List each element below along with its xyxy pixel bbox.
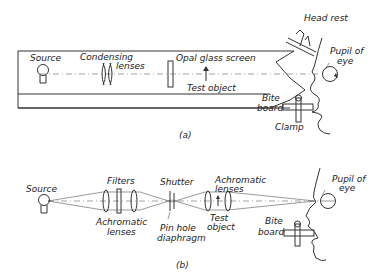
label-board-b: board [258, 227, 284, 237]
label-clamp: Clamp [275, 122, 304, 132]
label-lenses-left: lenses [107, 227, 136, 237]
label-achromatic-left: Achromatic [95, 217, 147, 227]
label-eye: eye [337, 56, 354, 66]
eye-icon [323, 67, 339, 82]
face-profile-b [306, 168, 326, 261]
label-bite-b: Bite [265, 216, 283, 226]
test-object-arrow-icon [203, 66, 209, 81]
face-profile [310, 38, 330, 134]
pinhole-pointer [168, 212, 170, 219]
label-opal-glass-screen: Opal glass screen [176, 53, 256, 63]
label-board: board [257, 103, 283, 113]
label-test-object: Test object [187, 83, 236, 93]
label-source-b: Source [26, 184, 58, 194]
head-rest [286, 30, 316, 56]
pupil-pointer [326, 63, 329, 69]
label-pupil-of: Pupil of [330, 46, 365, 56]
caption-b: (b) [176, 260, 189, 270]
label-object: object [207, 222, 235, 232]
caption-a: (a) [179, 130, 192, 140]
label-lenses-right: lenses [215, 184, 244, 194]
label-head-rest: Head rest [304, 13, 348, 23]
label-diaphragm: diaphragm [157, 233, 206, 243]
label-bite: Bite [262, 93, 280, 103]
label-eye-b: eye [339, 183, 356, 193]
test-object-arrow-icon [216, 195, 220, 206]
label-filters: Filters [107, 176, 135, 186]
bulb-icon [39, 195, 50, 214]
light-rays [48, 192, 318, 210]
diagram-b: Source Filters Achromatic lenses Shutter… [26, 168, 367, 270]
label-shutter: Shutter [160, 177, 195, 187]
diagram-a: Source Condensing lenses Opal glass scre… [18, 13, 365, 140]
label-source: Source [30, 53, 62, 63]
label-pinhole: Pin hole [160, 223, 196, 233]
optical-apparatus-diagram: Source Condensing lenses Opal glass scre… [0, 0, 383, 280]
label-lenses: lenses [116, 61, 145, 71]
